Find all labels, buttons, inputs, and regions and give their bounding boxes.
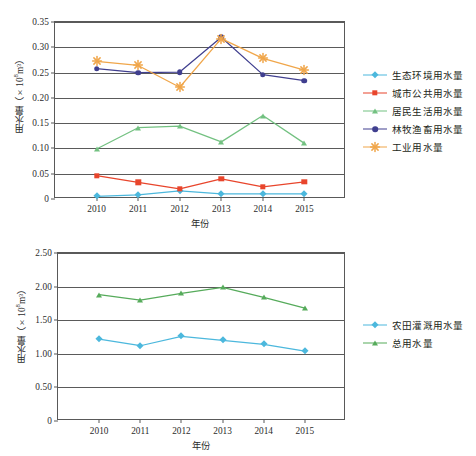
legend-marker-icon [363,87,387,99]
series-line [97,39,305,88]
y-tick-label: 2.00 [35,282,58,292]
legend-item[interactable]: 生态环境用水量 [363,66,463,84]
x-tick-label: 2011 [131,426,149,436]
legend-marker-icon [363,319,387,331]
y-tick-label: 0.20 [32,93,55,103]
x-tick-label: 2010 [90,426,109,436]
x-tick-label: 2011 [129,204,147,214]
data-point-marker [93,193,101,201]
y-tick-label: 0.10 [32,143,55,153]
series-line [97,191,305,197]
data-point-marker [302,306,308,311]
data-point-marker [219,176,224,181]
data-point-marker [135,180,140,185]
data-point-marker [91,56,102,67]
series-line [99,287,305,308]
data-point-marker [133,60,144,71]
x-tick-label: 2015 [296,426,315,436]
series-line [97,176,305,189]
data-point-marker [260,72,266,78]
y-tick-label: 1.50 [35,315,58,325]
data-point-marker [260,184,265,189]
data-point-marker [301,141,307,146]
data-point-marker [302,179,307,184]
x-tick-label: 2014 [254,426,273,436]
y-tick-label: 0.50 [35,382,58,392]
series-line [99,336,305,351]
y-tick-label: 0 [47,416,58,426]
data-point-marker [135,125,141,130]
x-axis-label-top: 年份 [54,216,345,230]
data-point-marker [137,298,143,303]
x-tick-label: 2010 [87,204,106,214]
legend-item[interactable]: 居民生活用水量 [363,102,463,120]
data-point-marker [94,173,99,178]
legend-marker-icon [363,105,387,117]
legend-label: 工业用水量 [392,140,443,154]
chart-panel-bottom: 用水量（×108m³） 00.501.001.502.002.502010201… [0,230,476,456]
legend-label: 生态环境用水量 [392,68,463,82]
data-point-marker [216,33,227,44]
y-tick-label: 0 [44,194,55,204]
plot-area-bottom: 00.501.001.502.002.502010201120122013201… [57,252,345,420]
x-tick-label: 2012 [172,426,191,436]
legend-label: 林牧渔畜用水量 [392,122,463,136]
y-tick-label: 0.35 [32,17,55,27]
x-tick-label: 2012 [170,204,189,214]
legend-marker-icon [363,123,387,135]
figure-root: 用水量（×108m³） 00.050.100.150.200.250.300.3… [0,0,476,456]
x-tick-label: 2013 [212,204,231,214]
legend-item[interactable]: 城市公共用水量 [363,84,463,102]
y-tick-label: 0.15 [32,118,55,128]
chart-panel-top: 用水量（×108m³） 00.050.100.150.200.250.300.3… [0,0,476,230]
y-tick-label: 2.50 [35,248,58,258]
y-tick-label: 1.00 [35,349,58,359]
data-point-marker [299,65,310,76]
x-tick-label: 2013 [213,426,232,436]
data-point-marker [96,292,102,297]
y-axis-label-bottom: 用水量（×108m³） [14,285,29,363]
data-point-marker [178,291,184,296]
data-point-marker [174,82,185,93]
data-point-marker [177,124,183,129]
legend-marker-icon [363,141,387,153]
data-point-marker [261,295,267,300]
legend-label: 居民生活用水量 [392,104,463,118]
legend-item[interactable]: 农田灌溉用水量 [363,316,463,334]
legend-label: 城市公共用水量 [392,86,463,100]
data-point-marker [302,78,308,84]
legend-marker-icon [363,337,387,349]
x-axis-label-bottom: 年份 [57,438,345,452]
data-point-marker [260,113,266,118]
legend-label: 农田灌溉用水量 [392,318,463,332]
series-line [97,37,305,80]
series-line [97,116,305,149]
legend-bottom: 农田灌溉用水量总用水量 [363,316,463,352]
data-point-marker [177,69,183,75]
legend-item[interactable]: 工业用水量 [363,138,463,156]
data-point-marker [220,285,226,290]
data-point-marker [94,146,100,151]
y-axis-label-top: 用水量（×108m³） [12,55,27,133]
legend-item[interactable]: 总用水量 [363,334,463,352]
y-tick-label: 0.30 [32,42,55,52]
plot-area-top: 00.050.100.150.200.250.300.3520102011201… [54,21,345,198]
legend-marker-icon [363,69,387,81]
legend-top: 生态环境用水量城市公共用水量居民生活用水量林牧渔畜用水量工业用水量 [363,66,463,156]
x-tick-label: 2014 [254,204,273,214]
legend-label: 总用水量 [392,336,433,350]
x-tick-label: 2015 [295,204,314,214]
legend-item[interactable]: 林牧渔畜用水量 [363,120,463,138]
data-point-marker [218,139,224,144]
data-point-marker [257,53,268,64]
y-tick-label: 0.05 [32,169,55,179]
data-point-marker [177,186,182,191]
y-tick-label: 0.25 [32,68,55,78]
